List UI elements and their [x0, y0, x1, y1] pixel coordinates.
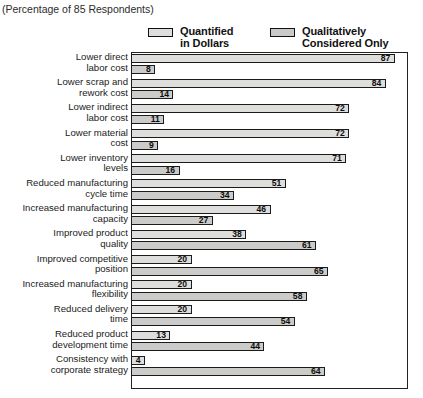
chart-group-row: Increased manufacturingflexibility2058: [0, 279, 423, 304]
bar-value-label: 84: [372, 79, 385, 88]
chart-rows: Lower directlabor cost878Lower scrap and…: [0, 52, 423, 389]
bar-value-label: 51: [272, 179, 285, 188]
chart-group-row: Lower directlabor cost878: [0, 52, 423, 77]
bar-pair: 7211: [131, 102, 423, 127]
chart-group-row: Lower scrap andrework cost8414: [0, 77, 423, 102]
bar-qualitative: 34: [131, 191, 234, 200]
bar-qualitative: 54: [131, 317, 295, 326]
bar-value-label: 20: [178, 280, 191, 289]
category-label-line1: Lower material: [65, 127, 128, 138]
category-label: Reduced deliverytime: [0, 304, 128, 325]
bar-quantified: 72: [131, 104, 349, 113]
category-label-line1: Reduced product: [55, 328, 128, 339]
bar-pair: 729: [131, 128, 423, 153]
category-label-line1: Lower scrap and: [57, 76, 128, 87]
bar-pair: 7116: [131, 153, 423, 178]
chart-group-row: Reduced manufacturingcycle time5134: [0, 178, 423, 203]
category-label: Lower materialcost: [0, 128, 128, 149]
bar-value-label: 9: [149, 141, 157, 150]
category-label-line1: Improved competitive: [37, 253, 128, 264]
legend-label-quantified-line2: in Dollars: [180, 37, 229, 49]
category-label: Reduced manufacturingcycle time: [0, 178, 128, 199]
chart-group-row: Reduced deliverytime2054: [0, 304, 423, 329]
bar-qualitative: 44: [131, 342, 264, 351]
category-label-line2: corporate strategy: [0, 365, 128, 376]
bar-qualitative: 14: [131, 90, 173, 99]
bar-value-label: 46: [256, 205, 269, 214]
bar-quantified: 20: [131, 280, 192, 289]
chart-group-row: Improved productquality3861: [0, 228, 423, 253]
bar-qualitative: 8: [131, 65, 155, 74]
bar-quantified: 38: [131, 230, 246, 239]
legend-swatch-icon-quantified: [148, 28, 173, 37]
bar-value-label: 34: [220, 191, 233, 200]
bar-qualitative: 9: [131, 141, 158, 150]
chart-subtitle: (Percentage of 85 Respondents): [2, 3, 154, 15]
category-label: Improved productquality: [0, 228, 128, 249]
category-label-line2: levels: [0, 163, 128, 174]
bar-pair: 2065: [131, 254, 423, 279]
bar-pair: 464: [131, 354, 423, 379]
bar-pair: 1344: [131, 329, 423, 354]
bar-qualitative: 61: [131, 241, 316, 250]
category-label-line2: development time: [0, 340, 128, 351]
bar-pair: 878: [131, 52, 423, 77]
bar-value-label: 16: [165, 166, 178, 175]
bar-quantified: 51: [131, 179, 286, 188]
bar-quantified: 72: [131, 129, 349, 138]
category-label-line2: position: [0, 264, 128, 275]
bar-pair: 2058: [131, 279, 423, 304]
legend-swatch-icon-qualitative: [270, 28, 295, 37]
bar-value-label: 20: [178, 255, 191, 264]
legend-label-qualitative-line1: Qualitatively: [302, 25, 366, 37]
category-label: Improved competitiveposition: [0, 254, 128, 275]
bar-pair: 3861: [131, 228, 423, 253]
category-label-line2: time: [0, 314, 128, 325]
category-label-line2: quality: [0, 239, 128, 250]
bar-qualitative: 58: [131, 292, 307, 301]
chart-group-row: Consistency withcorporate strategy464: [0, 354, 423, 379]
bar-value-label: 38: [232, 230, 245, 239]
legend-label-quantified-line1: Quantified: [180, 25, 233, 37]
category-label: Reduced productdevelopment time: [0, 329, 128, 350]
bar-pair: 8414: [131, 77, 423, 102]
chart-group-row: Reduced productdevelopment time1344: [0, 329, 423, 354]
bar-qualitative: 11: [131, 115, 164, 124]
bar-qualitative: 65: [131, 267, 328, 276]
bar-value-label: 44: [250, 342, 263, 351]
category-label-line1: Reduced delivery: [54, 303, 128, 314]
category-label: Lower directlabor cost: [0, 52, 128, 73]
chart-legend: Quantified in Dollars Qualitatively Cons…: [148, 26, 423, 54]
legend-item-quantified-in-dollars: Quantified in Dollars: [148, 26, 233, 49]
bar-quantified: 4: [131, 356, 145, 365]
bar-pair: 4627: [131, 203, 423, 228]
bar-qualitative: 16: [131, 166, 180, 175]
bar-pair: 2054: [131, 304, 423, 329]
legend-item-qualitatively-considered-only: Qualitatively Considered Only: [270, 26, 389, 49]
chart-group-row: Lower inventorylevels7116: [0, 153, 423, 178]
bar-value-label: 54: [281, 317, 294, 326]
bar-quantified: 46: [131, 205, 271, 214]
legend-label-quantified: Quantified in Dollars: [180, 26, 233, 49]
legend-label-qualitative-line2: Considered Only: [302, 37, 389, 49]
bar-pair: 5134: [131, 178, 423, 203]
bar-value-label: 58: [293, 292, 306, 301]
category-label: Increased manufacturingcapacity: [0, 203, 128, 224]
bar-quantified: 84: [131, 79, 386, 88]
category-label-line2: rework cost: [0, 88, 128, 99]
category-label-line2: cost: [0, 138, 128, 149]
bar-value-label: 61: [302, 241, 315, 250]
bar-quantified: 87: [131, 54, 395, 63]
category-label-line1: Lower inventory: [60, 152, 128, 163]
chart-group-row: Improved competitiveposition2065: [0, 254, 423, 279]
category-label-line2: capacity: [0, 214, 128, 225]
bar-qualitative: 27: [131, 216, 213, 225]
bar-value-label: 71: [332, 154, 345, 163]
bar-value-label: 72: [335, 104, 348, 113]
bar-value-label: 13: [156, 331, 169, 340]
category-label-line1: Increased manufacturing: [22, 278, 128, 289]
category-label-line1: Improved product: [53, 227, 128, 238]
bar-qualitative: 64: [131, 367, 325, 376]
legend-label-qualitative: Qualitatively Considered Only: [302, 26, 389, 49]
category-label-line1: Lower direct: [76, 51, 128, 62]
